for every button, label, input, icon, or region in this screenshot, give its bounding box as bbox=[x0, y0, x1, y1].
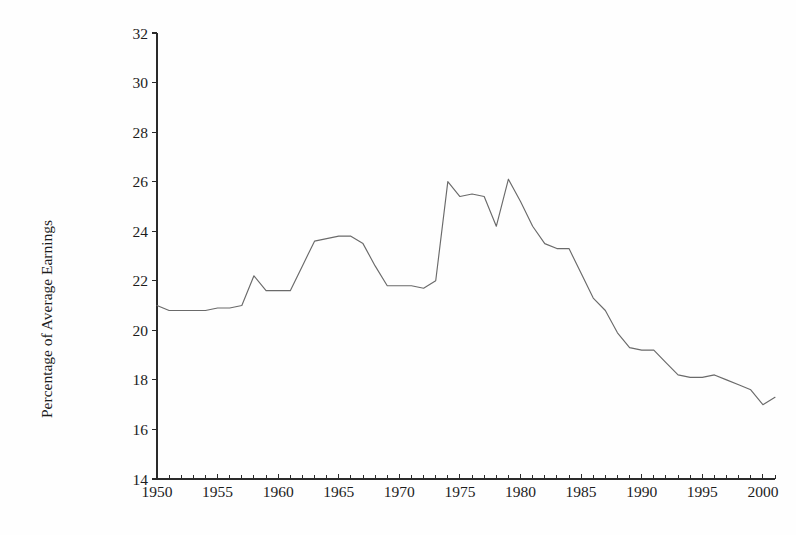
y-tick-label: 20 bbox=[133, 322, 149, 339]
x-tick-label: 1975 bbox=[444, 483, 475, 500]
y-tick-label: 28 bbox=[133, 124, 149, 141]
y-axis-label: Percentage of Average Earnings bbox=[38, 220, 55, 418]
line-chart-canvas: Percentage of Average Earnings 141618202… bbox=[0, 0, 796, 535]
x-tick-label: 1950 bbox=[142, 483, 173, 500]
x-tick-label: 1965 bbox=[323, 483, 354, 500]
x-tick-label: 1955 bbox=[202, 483, 233, 500]
data-series-group bbox=[157, 179, 775, 404]
y-tick-label: 32 bbox=[133, 25, 149, 42]
y-tick-label: 22 bbox=[133, 272, 149, 289]
y-axis-tick-labels: 14161820222426283032 bbox=[133, 25, 149, 488]
data-line-0 bbox=[157, 179, 775, 404]
x-tick-label: 2000 bbox=[747, 483, 778, 500]
y-tick-label: 24 bbox=[133, 223, 149, 240]
x-axis-minor-ticks bbox=[157, 475, 775, 479]
chart-figure: Percentage of Average Earnings 141618202… bbox=[0, 0, 796, 535]
y-axis-ticks bbox=[152, 33, 157, 479]
y-tick-label: 26 bbox=[133, 173, 149, 190]
x-tick-label: 1970 bbox=[384, 483, 415, 500]
x-tick-label: 1990 bbox=[626, 483, 657, 500]
y-tick-label: 16 bbox=[133, 421, 149, 438]
x-tick-label: 1995 bbox=[687, 483, 718, 500]
x-axis-major-ticks bbox=[157, 474, 763, 480]
y-tick-label: 30 bbox=[133, 74, 149, 91]
y-tick-label: 18 bbox=[133, 371, 149, 388]
x-tick-label: 1985 bbox=[566, 483, 597, 500]
x-tick-label: 1980 bbox=[505, 483, 536, 500]
x-axis-tick-labels: 1950195519601965197019751980198519901995… bbox=[142, 483, 779, 500]
x-tick-label: 1960 bbox=[263, 483, 294, 500]
